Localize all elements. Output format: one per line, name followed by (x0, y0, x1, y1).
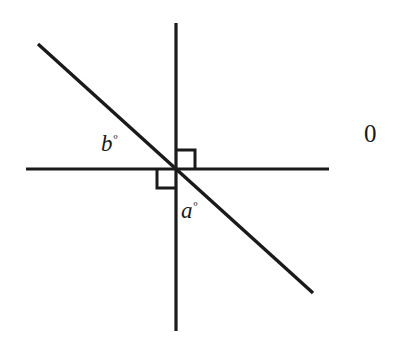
geometry-canvas (0, 0, 407, 347)
angle-label-a-variable: a (181, 198, 193, 223)
angle-label-b-variable: b (101, 131, 113, 156)
angle-label-b-degree: º (114, 131, 118, 146)
angle-label-a: aº (181, 199, 197, 222)
geometry-figure: bº aº 0 (0, 0, 407, 347)
angle-label-b: bº (101, 132, 117, 155)
corner-number: 0 (364, 121, 377, 146)
angle-label-a-degree: º (194, 198, 198, 213)
figure-background (0, 0, 407, 347)
